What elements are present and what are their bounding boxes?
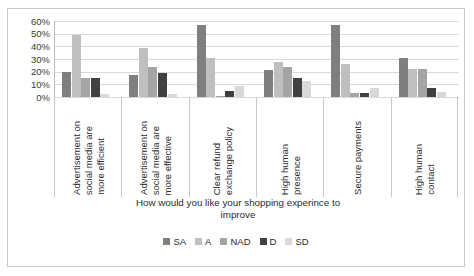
y-axis-tick-label: 40% <box>31 42 50 51</box>
bar-a <box>206 58 215 97</box>
category-label-3: Clear refundexchange policy <box>189 97 256 197</box>
y-axis-tick-label: 50% <box>31 29 50 38</box>
category-label-line: High human <box>413 144 424 195</box>
plot-area <box>54 21 459 97</box>
category-label-text: High humancontact <box>392 144 457 195</box>
category-label-line: exchange policy <box>223 127 234 195</box>
bar-group <box>392 21 459 97</box>
legend-label: NAD <box>230 237 250 246</box>
bar-group <box>190 21 257 97</box>
y-axis-tick-label: 30% <box>31 55 50 64</box>
y-axis-tick-label: 60% <box>31 17 50 26</box>
legend-swatch-icon <box>163 238 170 245</box>
y-axis-tick-label: 10% <box>31 80 50 89</box>
bar-sa <box>197 25 206 97</box>
category-label-text: Advertisement onsocial media aremore eff… <box>122 121 188 195</box>
bar-group <box>324 21 391 97</box>
category-label-text: Advertisement onsocial media aremore eff… <box>55 121 121 195</box>
bar-nad <box>283 67 292 97</box>
legend-swatch-icon <box>220 238 227 245</box>
category-label-1: Advertisement onsocial media aremore eff… <box>54 97 121 197</box>
category-label-line: more effective <box>162 136 173 196</box>
category-axis: Advertisement onsocial media aremore eff… <box>54 97 458 197</box>
category-label-text: Clear refundexchange policy <box>190 127 256 195</box>
bar-a <box>341 64 350 97</box>
legend-swatch-icon <box>195 238 202 245</box>
plot-wrapper <box>54 21 458 97</box>
category-label-2: Advertisement onsocial media aremore eff… <box>121 97 188 197</box>
category-label-line: social media are <box>150 126 161 195</box>
legend-label: SD <box>295 237 308 246</box>
legend-item-a[interactable]: A <box>195 237 211 246</box>
legend-item-sd[interactable]: SD <box>285 237 308 246</box>
bar-a <box>408 69 417 97</box>
category-label-6: High humancontact <box>391 97 458 197</box>
x-axis-title-line1: How would you like your shopping experin… <box>68 197 408 209</box>
bar-a <box>139 48 148 97</box>
bar-sa <box>331 25 340 97</box>
category-label-line: Secure payments <box>352 121 363 195</box>
category-label-line: social media are <box>83 126 94 195</box>
bar-sd <box>370 88 379 97</box>
category-label-line: presence <box>291 156 302 195</box>
y-axis-tick-label: 0% <box>36 93 50 102</box>
bar-sa <box>399 58 408 97</box>
bar-nad <box>418 69 427 97</box>
legend-label: SA <box>173 237 186 246</box>
legend-label: A <box>205 237 211 246</box>
bar-a <box>274 62 283 97</box>
category-label-line: High human <box>279 144 290 195</box>
legend-item-sa[interactable]: SA <box>163 237 186 246</box>
bar-sa <box>129 75 138 97</box>
category-label-5: Secure payments <box>323 97 390 197</box>
category-label-text: Secure payments <box>324 121 390 195</box>
category-label-text: High humanpresence <box>257 144 323 195</box>
y-axis-tick-label: 20% <box>31 67 50 76</box>
bar-sd <box>235 86 244 97</box>
legend-swatch-icon <box>260 238 267 245</box>
bar-d <box>427 88 436 97</box>
category-label-line: Advertisement on <box>138 121 149 195</box>
bar-group <box>257 21 324 97</box>
bar-sa <box>62 72 71 97</box>
legend-label: D <box>270 237 277 246</box>
bar-nad <box>81 78 90 97</box>
category-label-line: Clear refund <box>211 143 222 195</box>
category-label-line: more efficient <box>95 138 106 195</box>
bar-sd <box>302 81 311 97</box>
legend-item-nad[interactable]: NAD <box>220 237 250 246</box>
chart-legend: SAANADDSD <box>8 237 464 246</box>
bar-group <box>122 21 189 97</box>
bar-d <box>91 78 100 97</box>
x-axis-title: How would you like your shopping experin… <box>68 197 408 221</box>
bar-a <box>72 35 81 97</box>
legend-swatch-icon <box>285 238 292 245</box>
bar-sa <box>264 70 273 97</box>
category-label-line: contact <box>425 164 436 195</box>
legend-item-d[interactable]: D <box>260 237 277 246</box>
bar-nad <box>148 67 157 97</box>
x-axis-title-line2: improve <box>68 209 408 221</box>
bar-group <box>55 21 122 97</box>
bar-d <box>158 73 167 97</box>
y-axis: 60%50%40%30%20%10%0% <box>8 21 50 101</box>
bar-d <box>293 78 302 97</box>
category-label-4: High humanpresence <box>256 97 323 197</box>
category-label-line: Advertisement on <box>71 121 82 195</box>
chart-container: 60%50%40%30%20%10%0% Advertisement onsoc… <box>7 8 465 267</box>
